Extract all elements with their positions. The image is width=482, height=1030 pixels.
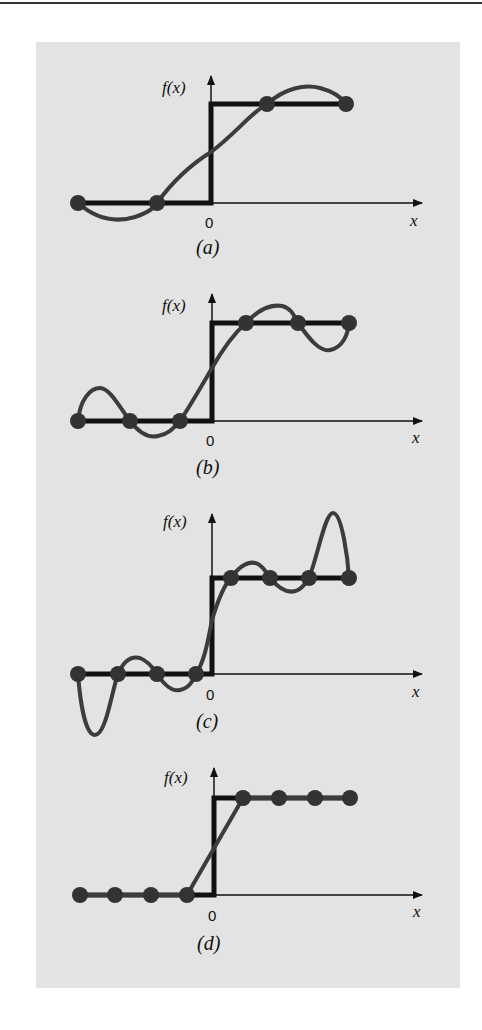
panel-caption: (b)	[196, 456, 220, 479]
panel-caption: (c)	[196, 710, 219, 733]
panel-c: f(x) x 0 (c)	[70, 512, 422, 735]
figure: f(x) x 0 (a) f(x) x 0 (b) f(x) x 0 (c)	[0, 0, 482, 1030]
origin-label: 0	[206, 686, 214, 703]
x-axis-label: x	[409, 211, 418, 230]
panel-b: f(x) x 0 (b)	[70, 294, 422, 479]
origin-label: 0	[206, 432, 214, 449]
y-axis-label: f(x)	[162, 296, 186, 315]
x-axis-label: x	[412, 902, 421, 921]
panel-caption: (a)	[196, 236, 220, 259]
y-axis-label: f(x)	[163, 512, 187, 531]
origin-label: 0	[205, 214, 213, 231]
y-axis-label: f(x)	[164, 768, 188, 787]
x-axis-label: x	[411, 682, 420, 701]
panel-caption: (d)	[197, 932, 221, 955]
x-axis-label: x	[411, 428, 420, 447]
origin-label: 0	[208, 907, 216, 924]
panel-d: f(x) x 0 (d)	[72, 768, 422, 955]
y-axis-label: f(x)	[162, 78, 186, 97]
step-function	[78, 578, 349, 674]
panel-a: f(x) x 0 (a)	[70, 76, 422, 259]
